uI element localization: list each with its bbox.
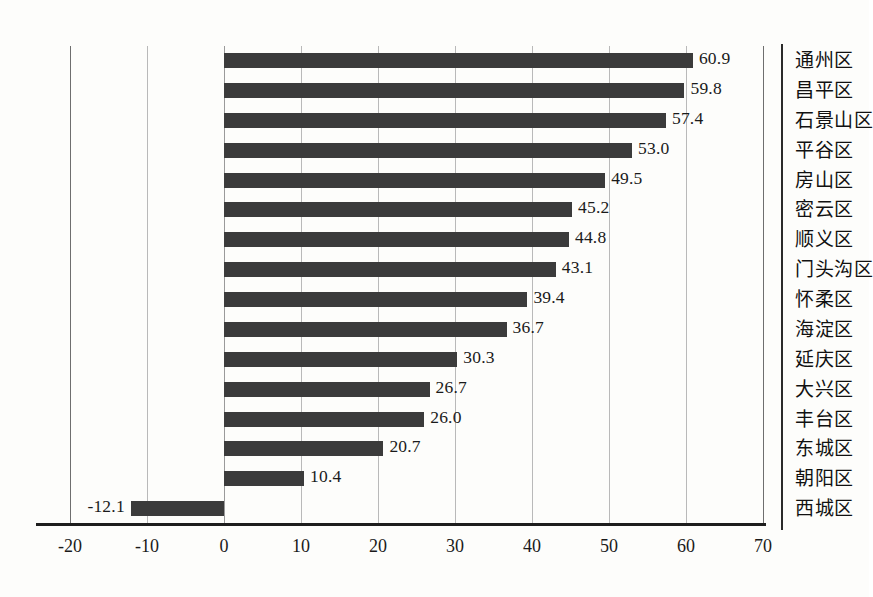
x-tick-label: 30 (446, 536, 464, 557)
bar-row: 26.0 (70, 405, 763, 435)
bar (224, 143, 632, 158)
category-label: 延庆区 (795, 345, 854, 375)
bar-value-label: 36.7 (513, 317, 544, 338)
bar (224, 173, 605, 188)
category-label: 丰台区 (795, 405, 854, 435)
bar-value-label: 45.2 (578, 197, 609, 218)
bar (224, 441, 383, 456)
bar (224, 262, 556, 277)
bar-value-label: -12.1 (87, 496, 124, 517)
category-label: 门头沟区 (795, 255, 873, 285)
category-label: 朝阳区 (795, 464, 854, 494)
bar-value-label: 43.1 (562, 257, 593, 278)
bar-value-label: 44.8 (575, 227, 606, 248)
bar-value-label: 49.5 (611, 168, 642, 189)
bar-value-label: 20.7 (389, 436, 420, 457)
bar-row: 60.9 (70, 46, 763, 76)
bar-row: 53.0 (70, 136, 763, 166)
bar-value-label: 39.4 (533, 287, 564, 308)
bar (224, 113, 666, 128)
bar-row: 20.7 (70, 434, 763, 464)
bar-row: 59.8 (70, 76, 763, 106)
bar (224, 471, 304, 486)
bar-value-label: 57.4 (672, 108, 703, 129)
x-tick-label: -20 (58, 536, 82, 557)
category-label: 房山区 (795, 166, 854, 196)
bar (131, 501, 224, 516)
category-label: 怀柔区 (795, 285, 854, 315)
bar (224, 352, 457, 367)
category-label: 昌平区 (795, 76, 854, 106)
bar-value-label: 26.7 (436, 377, 467, 398)
bar (224, 322, 507, 337)
bar (224, 292, 527, 307)
bar (224, 202, 572, 217)
category-axis-labels: 通州区昌平区石景山区平谷区房山区密云区顺义区门头沟区怀柔区海淀区延庆区大兴区丰台… (795, 46, 869, 524)
bar-value-label: 53.0 (638, 138, 669, 159)
x-tick-label: 40 (523, 536, 541, 557)
x-tick-label: -10 (135, 536, 159, 557)
x-tick-label: 0 (220, 536, 229, 557)
category-label: 通州区 (795, 46, 854, 76)
bar-row: 45.2 (70, 195, 763, 225)
bar (224, 83, 684, 98)
category-label: 顺义区 (795, 225, 854, 255)
bar-value-label: 26.0 (430, 407, 461, 428)
x-tick-label: 70 (754, 536, 772, 557)
bar (224, 232, 569, 247)
x-axis-line (36, 523, 766, 526)
category-label: 西城区 (795, 494, 854, 524)
bar-row: 49.5 (70, 166, 763, 196)
category-label: 密云区 (795, 195, 854, 225)
category-label: 大兴区 (795, 375, 854, 405)
x-axis-tick-labels: -20-10010203040506070 (70, 536, 763, 566)
bar-row: 30.3 (70, 345, 763, 375)
bars-layer: 60.959.857.453.049.545.244.843.139.436.7… (70, 46, 763, 524)
bar-value-label: 30.3 (463, 347, 494, 368)
bar-row: 57.4 (70, 106, 763, 136)
x-tick-label: 10 (292, 536, 310, 557)
bar (224, 53, 693, 68)
bar-value-label: 10.4 (310, 466, 341, 487)
category-label: 东城区 (795, 434, 854, 464)
category-label: 石景山区 (795, 106, 873, 136)
category-axis-divider (781, 44, 783, 530)
bar-row: 10.4 (70, 464, 763, 494)
bar-row: 44.8 (70, 225, 763, 255)
bar-row: 36.7 (70, 315, 763, 345)
bar-value-label: 60.9 (699, 48, 730, 69)
x-tick-label: 50 (600, 536, 618, 557)
bar (224, 412, 424, 427)
x-tick-label: 60 (677, 536, 695, 557)
gridline-70 (763, 46, 764, 524)
bar (224, 382, 430, 397)
category-label: 平谷区 (795, 136, 854, 166)
bar-value-label: 59.8 (690, 78, 721, 99)
bar-row: 26.7 (70, 375, 763, 405)
category-label: 海淀区 (795, 315, 854, 345)
bar-row: 43.1 (70, 255, 763, 285)
bar-row: 39.4 (70, 285, 763, 315)
plot-area: 60.959.857.453.049.545.244.843.139.436.7… (70, 46, 763, 524)
bar-row: -12.1 (70, 494, 763, 524)
x-tick-label: 20 (369, 536, 387, 557)
